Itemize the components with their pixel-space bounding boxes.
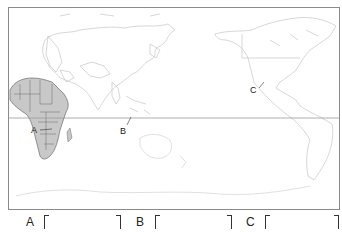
oceania-outline <box>16 134 310 196</box>
map-label-b: B <box>120 127 126 136</box>
world-map <box>0 0 342 212</box>
answer-letter-b: B <box>136 216 144 228</box>
map-label-a: A <box>31 126 37 135</box>
africa-region <box>10 78 72 159</box>
answer-bracket-open-b <box>155 215 160 229</box>
answer-letter-a: A <box>26 216 34 228</box>
answer-bracket-close-b <box>227 215 232 229</box>
answer-bracket-open-c <box>265 215 270 229</box>
leader-line-c <box>259 82 264 88</box>
answer-row: A B C <box>0 213 342 232</box>
answer-field-b[interactable] <box>161 215 225 228</box>
americas-outline <box>215 17 336 180</box>
answer-bracket-close-a <box>116 215 121 229</box>
answer-field-c[interactable] <box>271 215 333 228</box>
answer-field-a[interactable] <box>50 215 114 228</box>
answer-bracket-close-c <box>334 215 339 229</box>
map-label-c: C <box>250 86 257 95</box>
answer-letter-c: C <box>246 216 255 228</box>
answer-bracket-open-a <box>44 215 49 229</box>
